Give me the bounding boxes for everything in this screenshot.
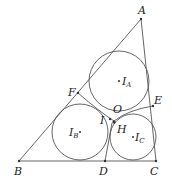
label-e: E [153, 94, 162, 107]
segment-fh [78, 93, 114, 121]
label-ic: IC [134, 131, 145, 145]
point-b [18, 160, 20, 162]
point-labels: A B C D E F O I H IA IB IC [13, 4, 162, 178]
label-h: H [116, 123, 127, 136]
label-b: B [13, 165, 22, 178]
geometry-diagram: A B C D E F O I H IA IB IC [0, 0, 172, 180]
label-ib: IB [68, 126, 79, 140]
point-a [140, 18, 142, 20]
point-c [155, 160, 157, 162]
label-ia: IA [121, 75, 131, 89]
center-ia [118, 80, 120, 82]
center-ic [132, 136, 134, 138]
label-d: D [98, 165, 108, 178]
label-o: O [113, 103, 122, 116]
point-d [104, 160, 106, 162]
label-f: F [67, 86, 76, 99]
label-c: C [150, 165, 159, 178]
point-h [112, 120, 115, 123]
label-a: A [137, 4, 146, 17]
point-f [77, 92, 79, 94]
side-ab [19, 19, 141, 161]
label-i: I [99, 114, 105, 127]
center-ib [79, 131, 81, 133]
point-i [109, 118, 111, 120]
